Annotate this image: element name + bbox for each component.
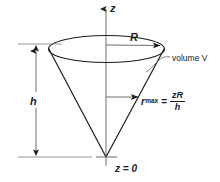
volume-label: volume V xyxy=(172,54,207,63)
cone-left-slant xyxy=(49,49,106,158)
fraction-numerator: zR xyxy=(170,91,185,101)
fraction: zR h xyxy=(170,91,185,112)
height-arrow-top xyxy=(33,45,39,52)
volume-leader-line xyxy=(146,57,170,72)
fraction-denominator: h xyxy=(173,102,183,112)
z-axis-label: z xyxy=(110,3,116,14)
rmax-formula: rmax = zR h xyxy=(141,91,185,112)
radius-arrow xyxy=(106,45,160,46)
diagram-canvas xyxy=(0,0,220,182)
origin-label: z = 0 xyxy=(115,164,137,174)
cone-volume-diagram: z R h volume V z = 0 rmax = zR h xyxy=(0,0,220,182)
equals-sign: = xyxy=(161,97,167,107)
radius-label: R xyxy=(130,32,138,43)
height-label: h xyxy=(30,96,37,107)
rmax-subscript: max xyxy=(145,98,158,105)
